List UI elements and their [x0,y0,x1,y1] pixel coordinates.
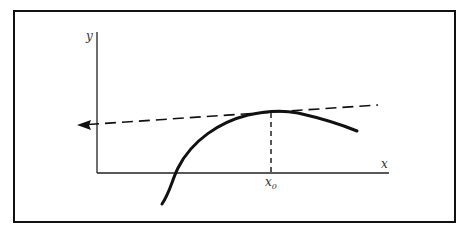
y-axis-label: y [85,29,93,43]
x0-label-subscript: 0 [272,182,277,191]
frame-border [14,11,455,222]
arrowhead-left-icon [77,120,91,130]
curve [162,111,357,204]
x0-label: x0 [265,175,277,191]
diagram-canvas: y x x0 [0,0,468,231]
x-axis-label: x [381,157,388,171]
